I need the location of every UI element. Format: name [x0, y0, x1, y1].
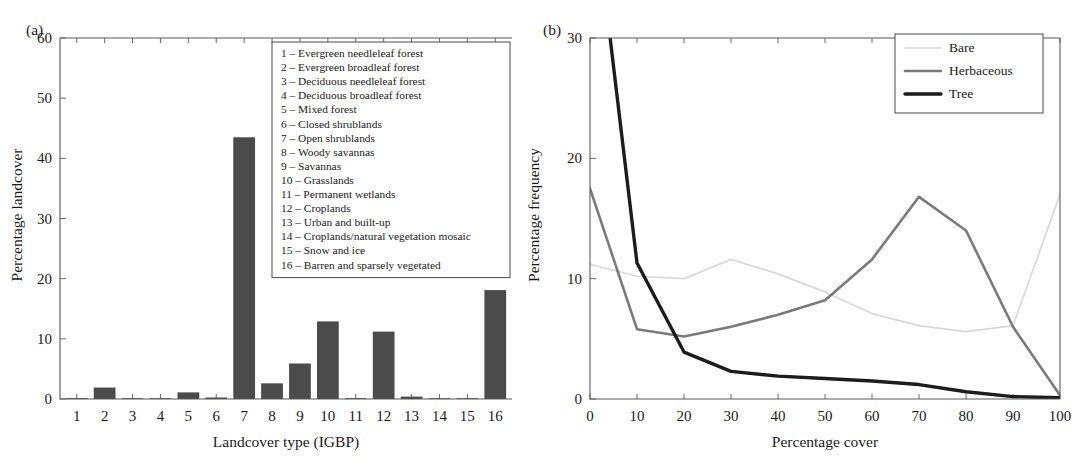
panel-b-y-ticks — [590, 38, 596, 399]
panel-a-x-tick-label: 4 — [157, 408, 165, 424]
panel-b-y-tick-label: 0 — [575, 391, 583, 407]
panel-a-y-tick-label: 30 — [37, 211, 52, 227]
panel-b-x-tick-label: 30 — [724, 408, 739, 424]
panel-b-x-tick-label: 0 — [586, 408, 594, 424]
panel-a-y-tick-label: 40 — [37, 150, 52, 166]
panel-a-bar — [289, 364, 311, 399]
panel-a-legend-entry: 3 – Deciduous needleleaf forest — [281, 75, 426, 87]
panel-a-x-axis-title: Landcover type (IGBP) — [213, 433, 359, 451]
panel-a-bar — [261, 383, 283, 399]
panel-a-x-tick-label: 15 — [460, 408, 475, 424]
panel-b-legend-label-herbaceous: Herbaceous — [949, 63, 1013, 78]
panel-b-x-tick-label: 100 — [1049, 408, 1072, 424]
panel-a-bar — [317, 321, 339, 399]
panel-a-x-tick-label: 13 — [404, 408, 419, 424]
panel-a-x-tick-label: 5 — [185, 408, 193, 424]
panel-a-y-tick-label: 20 — [37, 271, 52, 287]
panel-b-x-tick-label: 60 — [865, 408, 880, 424]
panel-a-x-tick-label: 11 — [349, 408, 363, 424]
panel-a-legend-entry: 6 – Closed shrublands — [281, 118, 382, 130]
panel-a-x-tick-label: 7 — [240, 408, 248, 424]
panel-a-x-tick-label: 3 — [129, 408, 137, 424]
panel-a-bar — [177, 392, 199, 399]
panel-b-y-tick-label: 20 — [567, 150, 582, 166]
panel-a-y-tick-labels: 0102030405060 — [37, 30, 52, 407]
panel-b-x-axis-title: Percentage cover — [772, 433, 879, 450]
panel-a-x-tick-label: 6 — [212, 408, 220, 424]
panel-a-legend-entry: 10 – Grasslands — [281, 174, 354, 186]
panel-a-y-ticks — [60, 38, 66, 399]
panel-a-bar — [484, 290, 506, 399]
panel-a-y-tick-label: 50 — [37, 90, 52, 106]
panel-a-legend-entry: 2 – Evergreen broadleaf forest — [281, 61, 420, 73]
panel-a-legend-entry: 8 – Woody savannas — [281, 146, 375, 158]
panel-a-legend-entry: 9 – Savannas — [281, 160, 342, 172]
panel-a-landcover-bar-chart: (a) 0102030405060 1234567891011121314151… — [0, 0, 530, 466]
panel-a-x-tick-label: 8 — [268, 408, 276, 424]
panel-a-bar — [373, 332, 395, 399]
panel-b-y-tick-label: 10 — [567, 271, 582, 287]
panel-a-legend-entry: 11 – Permanent wetlands — [281, 188, 396, 200]
panel-a-legend-entry: 16 – Barren and sparsely vegetated — [281, 259, 441, 271]
panel-a-x-tick-label: 2 — [101, 408, 109, 424]
panel-a-bar — [233, 137, 255, 399]
figure-container: (a) 0102030405060 1234567891011121314151… — [0, 0, 1085, 466]
panel-b-x-tick-label: 40 — [771, 408, 786, 424]
panel-a-legend-entry: 15 – Snow and ice — [281, 244, 365, 256]
panel-b-label: (b) — [543, 21, 561, 39]
panel-a-y-tick-label: 10 — [37, 331, 52, 347]
panel-a-legend-entry: 13 – Urban and built-up — [281, 216, 391, 228]
panel-b-legend-label-bare: Bare — [949, 40, 974, 55]
panel-b-y-tick-labels: 0102030 — [567, 30, 582, 407]
panel-a-y-tick-label: 60 — [37, 30, 52, 46]
panel-b-y-axis-title: Percentage frequency — [525, 148, 542, 282]
panel-b-x-tick-label: 70 — [912, 408, 927, 424]
panel-b-cover-frequency-line-chart: (b) 0102030 0102030405060708090100 Perce… — [515, 0, 1085, 466]
panel-a-legend-entry: 12 – Croplands — [281, 202, 351, 214]
panel-a-legend-entry: 7 – Open shrublands — [281, 132, 376, 144]
panel-a-y-axis-title: Percentage landcover — [8, 148, 25, 282]
panel-b-x-tick-label: 50 — [818, 408, 833, 424]
panel-a-y-tick-label: 0 — [45, 391, 53, 407]
panel-b-legend-label-tree: Tree — [949, 86, 973, 101]
panel-b-x-tick-label: 20 — [677, 408, 692, 424]
panel-b-x-tick-label: 80 — [959, 408, 974, 424]
panel-a-legend-entry: 14 – Croplands/natural vegetation mosaic — [281, 230, 471, 242]
panel-a-x-tick-labels: 12345678910111213141516 — [73, 408, 503, 424]
panel-b-x-tick-label: 10 — [630, 408, 645, 424]
panel-b-x-tick-labels: 0102030405060708090100 — [586, 408, 1071, 424]
panel-a-legend-entry: 5 – Mixed forest — [281, 103, 357, 115]
panel-a-x-tick-label: 12 — [376, 408, 391, 424]
panel-a-x-tick-label: 9 — [296, 408, 304, 424]
panel-a-legend-entry: 4 – Deciduous broadleaf forest — [281, 89, 422, 101]
panel-a-bar — [94, 388, 116, 399]
panel-a-x-tick-label: 1 — [73, 408, 81, 424]
panel-b-y-tick-label: 30 — [567, 30, 582, 46]
panel-b-svg: (b) 0102030 0102030405060708090100 Perce… — [515, 0, 1085, 466]
panel-a-x-tick-label: 14 — [432, 408, 448, 424]
panel-a-svg: (a) 0102030405060 1234567891011121314151… — [0, 0, 530, 466]
panel-a-x-tick-label: 10 — [320, 408, 335, 424]
panel-b-x-tick-label: 90 — [1006, 408, 1021, 424]
panel-a-legend-entry: 1 – Evergreen needleleaf forest — [281, 47, 424, 59]
panel-a-x-tick-label: 16 — [488, 408, 504, 424]
